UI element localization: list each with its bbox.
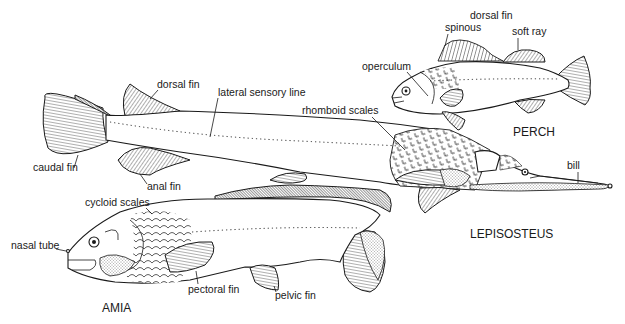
perch-label-operculum: operculum bbox=[362, 60, 411, 72]
gar-caudal-fin bbox=[43, 93, 108, 153]
amia-nasal-tube bbox=[67, 250, 70, 253]
gar-label-anal-fin: anal fin bbox=[147, 180, 181, 192]
fish-anatomy-diagram: dorsal fin spinous soft ray operculum PE… bbox=[0, 0, 625, 324]
gar-head-plate bbox=[475, 151, 500, 172]
lepisosteus-name: LEPISOSTEUS bbox=[470, 227, 553, 241]
perch-label-dorsal-fin: dorsal fin bbox=[470, 9, 513, 21]
amia-label-nasal-tube: nasal tube bbox=[11, 239, 60, 251]
gar-label-bill: bill bbox=[567, 159, 580, 171]
gar-label-dorsal-fin: dorsal fin bbox=[157, 78, 200, 90]
perch-soft-ray-dorsal-fin bbox=[503, 50, 545, 62]
amia-label-cycloid-scales: cycloid scales bbox=[85, 196, 150, 208]
perch-pelvic-fin bbox=[442, 112, 465, 130]
gar-label-rhomboid-scales: rhomboid scales bbox=[302, 104, 378, 116]
perch-body bbox=[392, 62, 569, 114]
gar-bill bbox=[470, 183, 610, 191]
perch-name: PERCH bbox=[513, 125, 555, 139]
gar-pelvic-fin bbox=[418, 187, 460, 213]
perch-label-soft-ray: soft ray bbox=[512, 25, 547, 37]
amia-label-pelvic-fin: pelvic fin bbox=[275, 289, 316, 301]
amia-label-pectoral-fin: pectoral fin bbox=[188, 283, 240, 295]
perch-illustration bbox=[392, 40, 590, 130]
perch-label-spinous: spinous bbox=[445, 21, 481, 33]
gar-lower-fin bbox=[270, 173, 307, 183]
perch-anal-fin bbox=[515, 99, 545, 113]
gar-body bbox=[106, 111, 608, 190]
gar-label-caudal-fin: caudal fin bbox=[33, 161, 78, 173]
amia-name: AMIA bbox=[102, 301, 131, 315]
perch-spinous-dorsal-fin bbox=[438, 40, 503, 61]
gar-label-lateral-sensory-line: lateral sensory line bbox=[218, 86, 306, 98]
